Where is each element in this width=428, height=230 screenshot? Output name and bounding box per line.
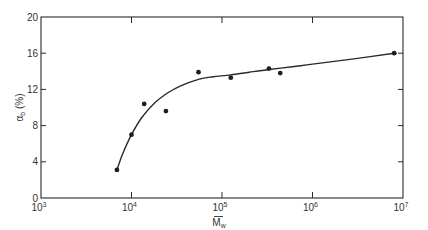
- fit-line: [117, 53, 394, 170]
- y-axis-label: αb (%): [14, 93, 26, 121]
- y-tick-label: 20: [27, 12, 39, 23]
- x-tick-label: 103: [31, 201, 46, 213]
- x-tick-label: 106: [303, 201, 318, 213]
- y-tick-label: 8: [32, 120, 38, 131]
- fitted-curve: [117, 53, 394, 170]
- x-axis-ticks: 103104105106107: [31, 17, 408, 213]
- y-tick-label: 16: [27, 48, 39, 59]
- y-axis-ticks: 048121620: [27, 12, 403, 204]
- data-point: [267, 66, 272, 71]
- data-point: [164, 109, 169, 114]
- data-point: [228, 75, 233, 80]
- data-point: [392, 51, 397, 56]
- x-tick-label: 107: [393, 201, 408, 213]
- data-points: [115, 51, 397, 173]
- y-tick-label: 4: [32, 156, 38, 167]
- plot-frame: [41, 17, 403, 198]
- x-tick-label: 104: [122, 201, 137, 213]
- data-point: [196, 70, 201, 75]
- data-point: [129, 132, 134, 137]
- data-point: [115, 168, 120, 173]
- x-axis-label: Mw: [212, 217, 226, 229]
- y-tick-label: 12: [27, 84, 39, 95]
- data-point: [142, 101, 147, 106]
- plot-border: [41, 17, 403, 198]
- x-tick-label: 105: [212, 201, 227, 213]
- data-point: [278, 71, 283, 76]
- chart-svg: 048121620 103104105106107 Mwαb (%): [0, 0, 428, 230]
